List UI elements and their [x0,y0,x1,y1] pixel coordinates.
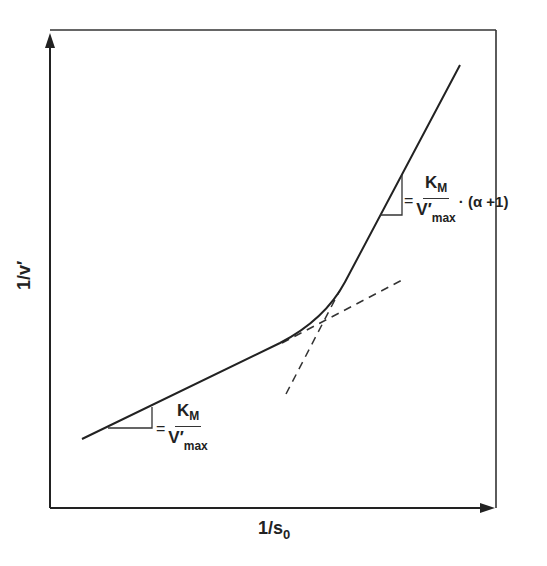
high-slope-asymptote [286,290,340,394]
fraction-numerator: KM [175,402,201,427]
numerator-text: K [425,173,437,192]
x-axis-label-text: 1/s [258,518,283,538]
denominator-text: V′ [416,200,431,219]
x-axis-arrow-icon [480,503,495,513]
lower-slope-triangle [108,407,152,428]
fraction-denominator: V′max [416,199,455,228]
low-slope-asymptote [282,278,406,343]
numerator-subscript: M [437,181,447,195]
observed-curve [82,65,460,439]
plot-canvas [0,0,547,566]
upper-slope-label: = KM V′max · (α +1) [404,174,508,228]
fraction: KM V′max [416,174,455,228]
equals-sign: = [404,192,413,210]
y-axis-arrow-icon [45,33,55,48]
y-axis-label: 1/v′ [14,261,35,290]
alpha-multiplier: · (α +1) [459,193,509,210]
numerator-text: K [177,401,189,420]
denominator-text: V′ [168,428,183,447]
denominator-subscript: max [184,439,208,453]
x-axis-label-subscript: 0 [283,527,290,542]
denominator-subscript: max [432,211,456,225]
fraction: KM V′max [168,402,207,456]
equals-sign: = [156,420,165,438]
numerator-subscript: M [189,409,199,423]
fraction-denominator: V′max [168,427,207,456]
fraction-numerator: KM [423,174,449,199]
x-axis-label: 1/s0 [258,518,290,542]
lower-slope-label: = KM V′max [156,402,208,456]
